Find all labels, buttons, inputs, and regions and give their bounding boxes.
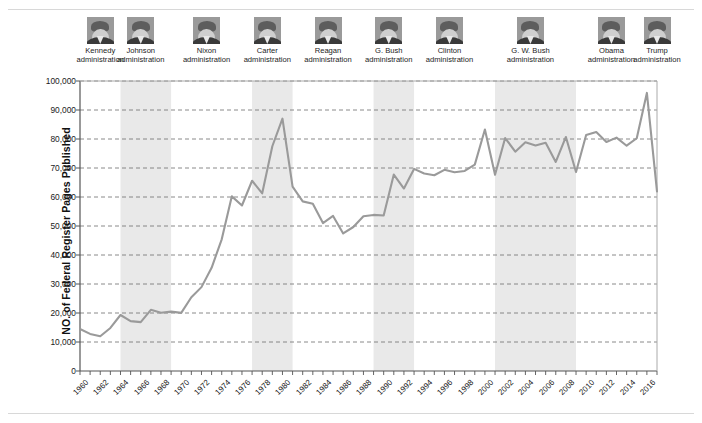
figure-canvas: KennedyadministrationJohnsonadministrati… <box>0 0 702 423</box>
x-axis-tick-labels: 1960196219641966196819701972197419761978… <box>0 0 702 423</box>
